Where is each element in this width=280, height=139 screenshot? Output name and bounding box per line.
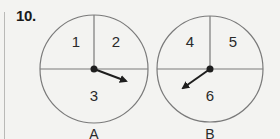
spinner-a-pivot — [91, 66, 98, 73]
spinner-a-section-3: 3 — [90, 87, 98, 104]
spinner-a-section-2: 2 — [112, 33, 120, 50]
spinner-b-label: B — [205, 126, 214, 139]
spinner-b-section-4: 4 — [186, 33, 194, 50]
spinner-a-label: A — [89, 126, 99, 139]
spinner-b-pivot — [207, 66, 214, 73]
spinners-diagram: 1 2 3 A 4 5 6 B — [0, 0, 280, 139]
spinner-b-section-6: 6 — [206, 87, 214, 104]
spinner-b: 4 5 6 B — [157, 16, 263, 139]
spinner-b-section-5: 5 — [229, 33, 237, 50]
spinner-a: 1 2 3 A — [40, 15, 148, 139]
spinner-a-section-1: 1 — [72, 33, 80, 50]
spinner-b-pointer-arrow-icon — [183, 69, 210, 88]
spinner-a-pointer-arrow-icon — [94, 69, 126, 81]
